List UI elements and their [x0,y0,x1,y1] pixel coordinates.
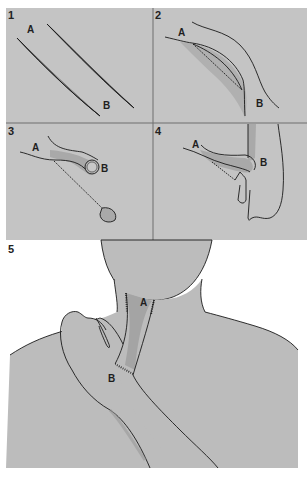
panel-5 [6,240,298,468]
panel-grid-bg [6,8,307,240]
tube-pedicle-figure: A B A B A B A B A B 1 2 3 4 5 [0,0,307,482]
panel-1-label-a: A [27,24,34,35]
panel-4-label-b: B [260,157,267,168]
panel-5-label-b: B [108,373,115,384]
panel-3-label-a: A [32,142,39,153]
panel-5-label-a: A [140,297,147,308]
panel-1-label-b: B [103,100,110,111]
panel-3-label-b: B [101,163,108,174]
illustration: A B A B A B A B A B [0,0,307,482]
panel-1-number: 1 [8,9,14,21]
panel-4-number: 4 [155,125,161,137]
panel-2-label-a: A [178,27,185,38]
panel-2-number: 2 [155,9,161,21]
panel-4-label-a: A [192,139,199,150]
panel-5-number: 5 [8,243,14,255]
panel-3-number: 3 [8,125,14,137]
panel-2-label-b: B [256,98,263,109]
